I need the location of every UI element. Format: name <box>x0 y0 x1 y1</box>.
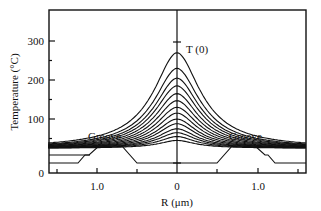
groove-label-right: Groove <box>229 130 262 142</box>
x-tick-0: 0 <box>174 180 180 192</box>
y-tick-0: 0 <box>39 167 45 179</box>
y-axis-ticks <box>49 41 55 139</box>
groove-label-left: Groove <box>88 130 121 142</box>
y-tick-100: 100 <box>28 113 45 125</box>
y-axis-title: Temperature (°C) <box>8 53 21 131</box>
x-axis-title: R (μm) <box>161 196 193 209</box>
temperature-profile-chart: 300 200 100 0 1.0 0 1.0 R (μm) Temperatu… <box>0 0 321 211</box>
y-tick-300: 300 <box>28 35 45 47</box>
peak-label: T (0) <box>186 43 208 56</box>
x-tick-neg-1: 1.0 <box>90 180 104 192</box>
x-tick-pos-1: 1.0 <box>251 180 265 192</box>
y-tick-200: 200 <box>28 74 45 86</box>
